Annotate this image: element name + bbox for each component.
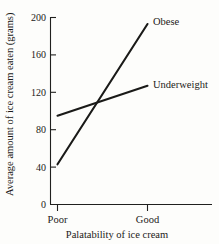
x-tick-label-good: Good: [136, 214, 160, 225]
x-axis-title: Palatability of ice cream: [66, 229, 168, 240]
y-tick-label-160: 160: [31, 49, 46, 60]
y-tick-label-0: 0: [41, 199, 46, 210]
line-chart-figure: Average amount of ice cream eaten (grams…: [0, 0, 219, 244]
series-line-obese: [58, 24, 148, 164]
chart-canvas: Average amount of ice cream eaten (grams…: [0, 0, 219, 244]
y-tick-label-120: 120: [31, 87, 46, 98]
y-tick-label-40: 40: [36, 162, 46, 173]
series-label-obese: Obese: [153, 16, 180, 27]
y-axis-title: Average amount of ice cream eaten (grams…: [4, 12, 16, 196]
series-line-underweight: [58, 86, 148, 116]
y-tick-label-200: 200: [31, 12, 46, 23]
y-tick-label-80: 80: [36, 124, 46, 135]
series-label-underweight: Underweight: [153, 79, 208, 90]
x-tick-label-poor: Poor: [48, 214, 68, 225]
